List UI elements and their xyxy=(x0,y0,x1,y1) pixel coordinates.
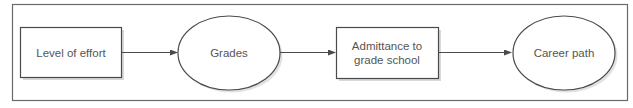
node-level-of-effort: Level of effort xyxy=(21,28,125,81)
node-grades: Grades xyxy=(178,16,283,93)
flow-diagram: Level of effort Grades Admittance to gra… xyxy=(0,0,633,108)
node-career-path: Career path xyxy=(513,16,618,93)
node-label: Grades xyxy=(210,47,248,59)
node-box xyxy=(337,28,439,79)
node-label-line-2: grade school xyxy=(354,54,420,66)
node-label: Level of effort xyxy=(36,47,106,59)
node-admittance-to-grade-school: Admittance to grade school xyxy=(337,28,442,82)
node-label: Career path xyxy=(534,47,595,59)
node-label-line-1: Admittance to xyxy=(352,40,422,52)
